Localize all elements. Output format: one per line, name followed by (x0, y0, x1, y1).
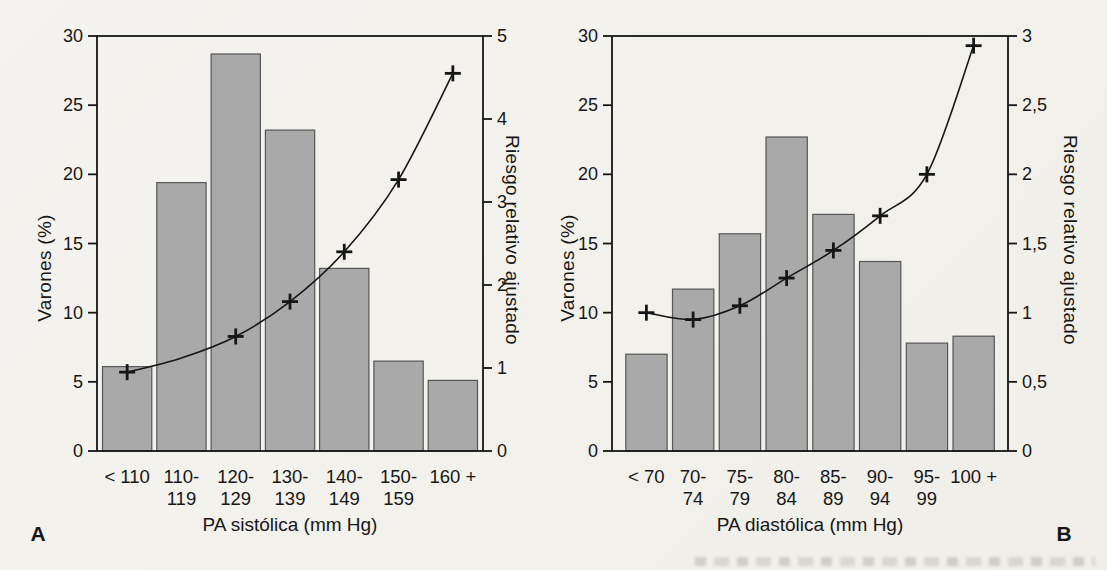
y-axis-label-left-b: Varones (%) (557, 214, 579, 322)
y-right-tick-label: 0,5 (1022, 372, 1047, 392)
y-left-tick-label: 20 (578, 164, 598, 184)
bar-<70 (626, 354, 667, 451)
plus-marker (638, 305, 654, 321)
plus-marker (966, 38, 982, 54)
y-left-tick-label: 25 (63, 95, 83, 115)
bar-90- (860, 262, 901, 452)
bar-80- (766, 137, 807, 451)
x-tick-label-line1: 75- (727, 466, 754, 487)
bar-110- (157, 183, 206, 451)
x-tick-label-line1: 110- (164, 466, 200, 487)
bar-140- (320, 268, 369, 451)
y-right-tick-label: 1,5 (1022, 234, 1047, 254)
bar-120- (211, 54, 260, 451)
y-axis-label-left-a: Varones (%) (34, 214, 56, 322)
y-right-tick-label: 4 (497, 109, 507, 129)
x-tick-label-line1: 95- (914, 466, 941, 487)
y-right-tick-label: 0 (497, 441, 507, 461)
x-axis-title-a: PA sistólica (mm Hg) (203, 514, 378, 536)
x-tick-label-line2: 129 (220, 488, 251, 509)
bar-150- (374, 361, 423, 451)
figure-blood-pressure-distribution: 051015202530012345< 110110-119120-129130… (0, 0, 1107, 570)
x-tick-label-line2: 149 (329, 488, 360, 509)
x-tick-label-line1: < 70 (628, 466, 665, 487)
bar-95- (906, 343, 947, 451)
panel-letter-b: B (1056, 522, 1071, 546)
x-tick-label-line1: 150- (380, 466, 417, 487)
y-right-tick-label: 0 (1022, 441, 1032, 461)
y-left-tick-label: 25 (578, 95, 598, 115)
x-tick-label-line1: 120- (217, 466, 254, 487)
x-tick-label-line1: 160 + (429, 466, 476, 487)
x-tick-label-line2: 94 (870, 488, 891, 509)
bar-160+ (428, 380, 477, 451)
y-left-tick-label: 0 (73, 441, 83, 461)
y-left-tick-label: 10 (63, 303, 83, 323)
x-tick-label-line2: 139 (275, 488, 306, 509)
y-axis-label-right-a: Riesgo relativo ajustado (501, 135, 523, 345)
y-right-tick-label: 5 (497, 26, 507, 46)
y-left-tick-label: 5 (588, 372, 598, 392)
chart-panel-a: 051015202530012345< 110110-119120-129130… (0, 0, 555, 570)
cropped-caption-remnant (695, 557, 1095, 566)
chart-a-plot: 051015202530012345< 110110-119120-129130… (0, 0, 555, 570)
plus-marker (391, 172, 407, 188)
x-tick-label-line1: 85- (820, 466, 847, 487)
y-axis-label-right-b: Riesgo relativo ajustado (1059, 135, 1081, 345)
x-tick-label-line2: 79 (730, 488, 751, 509)
y-right-tick-label: 1 (1022, 303, 1032, 323)
y-left-tick-label: 30 (578, 26, 598, 46)
x-tick-label-line2: 74 (683, 488, 704, 509)
plus-marker (445, 65, 461, 81)
y-left-tick-label: 5 (73, 372, 83, 392)
relative-risk-line (646, 46, 973, 320)
y-left-tick-label: 30 (63, 26, 83, 46)
x-tick-label-line2: 99 (917, 488, 938, 509)
x-tick-label-line2: 89 (823, 488, 844, 509)
plus-marker (872, 208, 888, 224)
y-right-tick-label: 3 (1022, 26, 1032, 46)
y-right-tick-label: 2,5 (1022, 95, 1047, 115)
chart-panel-b: 05101520253000,511,522,53< 7070-7475-798… (555, 0, 1107, 570)
x-tick-label-line1: 130- (271, 466, 308, 487)
y-left-tick-label: 20 (63, 164, 83, 184)
bar-100+ (953, 336, 994, 451)
y-left-tick-label: 0 (588, 441, 598, 461)
y-right-tick-label: 1 (497, 358, 507, 378)
y-left-tick-label: 10 (578, 303, 598, 323)
x-tick-label-line1: 90- (867, 466, 894, 487)
x-tick-label-line1: 80- (773, 466, 800, 487)
x-tick-label-line2: 84 (776, 488, 797, 509)
x-tick-label-line1: 100 + (950, 466, 997, 487)
y-right-tick-label: 2 (1022, 164, 1032, 184)
plus-marker (919, 166, 935, 182)
x-tick-label-line2: 119 (167, 488, 197, 509)
x-tick-label-line1: 70- (680, 466, 707, 487)
bar-130- (265, 130, 314, 451)
x-tick-label-line1: < 110 (104, 466, 149, 487)
bar-75- (719, 234, 760, 451)
y-left-tick-label: 15 (578, 234, 598, 254)
chart-b-plot: 05101520253000,511,522,53< 7070-7475-798… (555, 0, 1107, 570)
panel-letter-a: A (30, 522, 45, 546)
x-tick-label-line2: 159 (383, 488, 414, 509)
x-tick-label-line1: 140- (326, 466, 363, 487)
x-axis-title-b: PA diastólica (mm Hg) (717, 514, 904, 536)
y-left-tick-label: 15 (63, 234, 83, 254)
plot-frame (612, 36, 1008, 451)
